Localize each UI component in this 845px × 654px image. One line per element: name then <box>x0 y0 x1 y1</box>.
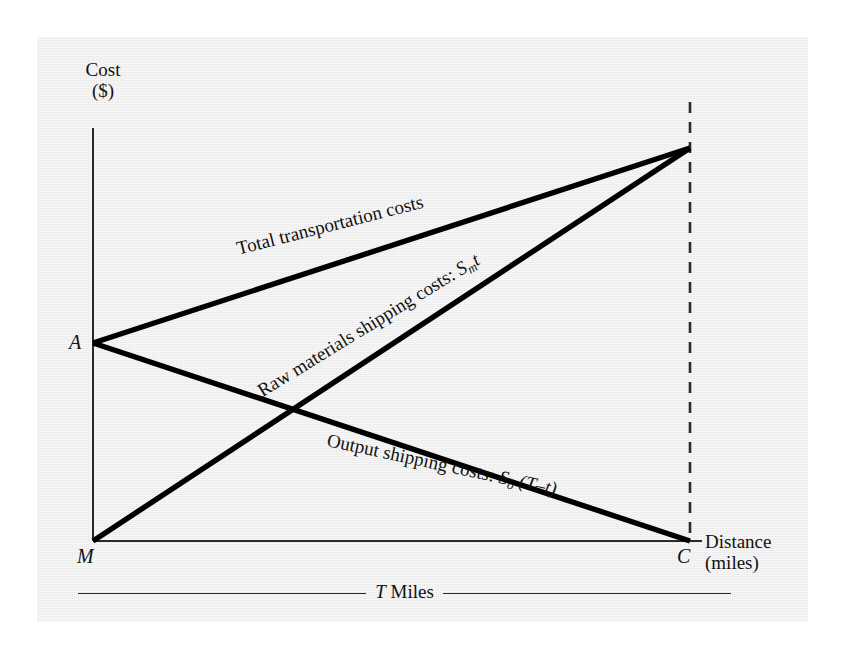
figure-panel: Cost ($) Distance (miles) A M C Total tr… <box>37 37 808 622</box>
x-axis-title-line1: Distance <box>705 531 771 552</box>
y-axis-title: Cost ($) <box>68 59 138 102</box>
t-miles-unit: Miles <box>391 581 434 602</box>
t-miles-symbol: T <box>375 581 386 602</box>
x-axis-title: Distance (miles) <box>705 531 771 574</box>
output-label-subscript: o <box>506 477 515 493</box>
cost-distance-plot <box>37 37 808 622</box>
t-miles-measure-bar: T Miles <box>78 580 731 606</box>
y-axis-title-line1: Cost <box>86 59 121 80</box>
x-axis-title-line2: (miles) <box>705 552 771 573</box>
point-label-m: M <box>77 545 94 567</box>
measure-rule-right <box>443 593 731 594</box>
t-miles-label: T Miles <box>366 581 443 603</box>
y-axis-title-line2: ($) <box>68 80 138 101</box>
point-label-c: C <box>677 545 690 567</box>
measure-rule-left <box>78 593 366 594</box>
point-label-a: A <box>69 331 81 353</box>
